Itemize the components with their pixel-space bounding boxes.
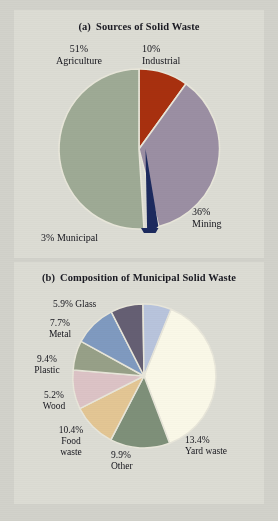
panel-composition-of-municipal-solid-waste: (b)Composition of Municipal Solid Waste … bbox=[14, 262, 264, 504]
slice-agriculture[interactable] bbox=[59, 69, 144, 229]
municipal-arrow-head bbox=[141, 228, 159, 233]
label-industrial: 10% Industrial bbox=[142, 43, 180, 66]
panel-b-title: (b)Composition of Municipal Solid Waste bbox=[14, 272, 264, 283]
label-agriculture: 51% Agriculture bbox=[40, 43, 118, 66]
label-other-pct: 9.9% bbox=[111, 450, 133, 461]
label-municipal: 3% Municipal bbox=[18, 232, 98, 244]
label-industrial-pct: 10% bbox=[142, 43, 180, 55]
pie-a-svg bbox=[55, 65, 223, 233]
label-agriculture-pct: 51% bbox=[40, 43, 118, 55]
panel-a-title: (a)Sources of Solid Waste bbox=[14, 21, 264, 32]
panel-b-title-text: Composition of Municipal Solid Waste bbox=[60, 272, 236, 283]
label-other-name: Other bbox=[111, 461, 133, 472]
pie-chart-sources bbox=[55, 65, 223, 233]
figure-plate: (a)Sources of Solid Waste 51% Agricultur… bbox=[0, 0, 278, 521]
pie-chart-composition bbox=[69, 301, 219, 451]
panel-b-tag: (b) bbox=[42, 272, 55, 283]
panel-sources-of-solid-waste: (a)Sources of Solid Waste 51% Agricultur… bbox=[14, 10, 264, 258]
panel-a-tag: (a) bbox=[78, 21, 91, 32]
pie-b-svg bbox=[69, 301, 219, 451]
panel-a-title-text: Sources of Solid Waste bbox=[96, 21, 200, 32]
label-other: 9.9% Other bbox=[111, 450, 133, 472]
